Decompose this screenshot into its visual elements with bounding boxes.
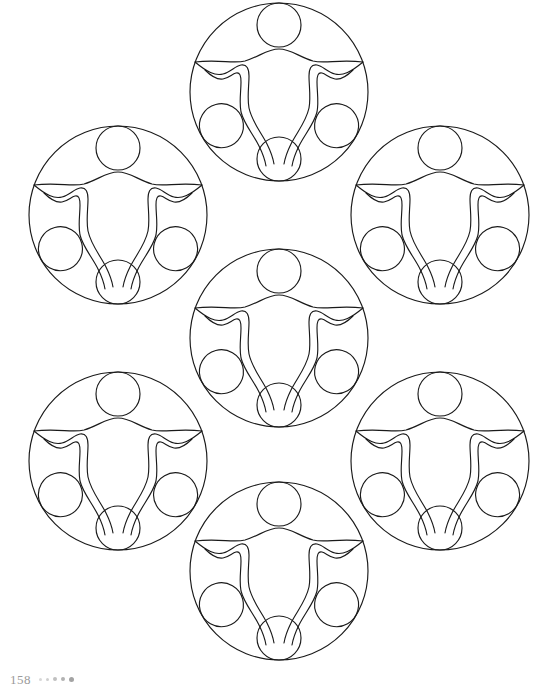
unit-lower-left (29, 372, 207, 550)
page-footer: 158 (10, 671, 74, 687)
dot-3-icon (53, 677, 57, 681)
page-number: 158 (10, 673, 31, 686)
mandala-artwork (0, 0, 558, 695)
dot-4-icon (61, 677, 65, 681)
coloring-page: 158 (0, 0, 558, 695)
unit-top (190, 3, 368, 181)
unit-center (190, 249, 368, 427)
dot-5-icon (69, 677, 74, 682)
dot-1-icon (39, 678, 42, 681)
unit-upper-right (351, 126, 529, 304)
unit-bottom (190, 482, 368, 660)
unit-lower-right (351, 372, 529, 550)
dot-2-icon (46, 678, 49, 681)
unit-upper-left (29, 126, 207, 304)
footer-dots (39, 677, 74, 682)
